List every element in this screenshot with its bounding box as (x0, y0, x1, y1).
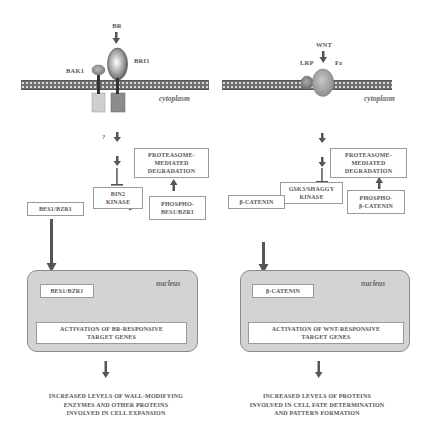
fz-icon (313, 70, 334, 97)
lrp-label: LRP (300, 59, 314, 67)
right-activation-box: ACTIVATION OF WNT-RESPONSIVE TARGET GENE… (248, 322, 404, 344)
left-cytoplasm-label: cytoplasm (159, 94, 190, 103)
right-degradation-box: PROTEASOME- MEDIATED DEGRADATION (330, 148, 407, 178)
left-phospho-box: PHOSPHO- BES1/BZR1 (149, 196, 206, 220)
right-outcome-text: INCREASED LEVELS OF PROTEINS INVOLVED IN… (221, 392, 413, 418)
left-nucleus-label: nucleus (156, 279, 180, 288)
wnt-label: WNT (311, 41, 337, 49)
br-label: BR (108, 22, 126, 30)
left-outcome-text: INCREASED LEVELS OF WALL-MODIFYING ENZYM… (20, 392, 212, 418)
bri1-transmembrane (116, 78, 119, 94)
gsk3-kinase-box: GSK3/SHAGGY KINASE (280, 182, 343, 204)
left-substrate-box: BES1/BZR1 (27, 202, 84, 216)
bak1-label: BAK1 (66, 67, 84, 75)
bin2-kinase-box-visible: BIN2 KINASE (93, 187, 143, 209)
beta-catenin-box: β-CATENIN (228, 195, 285, 209)
right-cytoplasm-label: cytoplasm (364, 94, 395, 103)
bri1-label: BRI1 (134, 57, 150, 65)
bak1-transmembrane (97, 78, 100, 94)
fz-label: Fz (335, 59, 342, 67)
left-activation-box: ACTIVATION OF BR-RESPONSIVE TARGET GENES (36, 322, 187, 344)
left-nuclear-factor-box: BES1/BZR1 (40, 284, 94, 298)
lrp-icon (301, 77, 313, 89)
signaling-pathway-diagram: BR BRI1 BAK1 cytoplasm ? PROTEASOME- MED… (0, 0, 433, 434)
receptor-overlay (0, 0, 433, 434)
right-nuclear-factor-box: β-CATENIN (252, 284, 314, 298)
left-degradation-box: PROTEASOME- MEDIATED DEGRADATION (134, 148, 209, 178)
unknown-upstream-label: ? (102, 133, 105, 141)
right-nucleus-label: nucleus (361, 279, 385, 288)
right-phospho-box: PHOSPHO- β-CATENIN (347, 190, 405, 214)
